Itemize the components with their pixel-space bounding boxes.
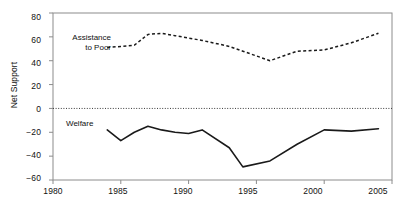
y-axis-ticks bbox=[49, 13, 53, 180]
x-axis-ticks bbox=[53, 180, 392, 184]
chart-figure: Net Support 80 60 40 20 0 −20 −40 −60 19… bbox=[0, 0, 409, 213]
axis-frame bbox=[53, 13, 392, 180]
series-line-welfare bbox=[107, 126, 378, 167]
series-line-assistance-to-poor bbox=[107, 33, 378, 60]
plot-area bbox=[0, 0, 409, 213]
